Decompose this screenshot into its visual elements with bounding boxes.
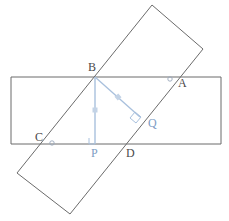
tick-on-bp — [93, 108, 98, 113]
label-p: P — [91, 146, 98, 160]
label-b: B — [88, 60, 96, 74]
geometry-figure: B A C Q P D — [0, 0, 229, 221]
label-c: C — [35, 130, 43, 144]
label-q: Q — [148, 116, 157, 130]
label-a: A — [178, 76, 187, 90]
label-d: D — [126, 146, 135, 160]
figure-background — [0, 0, 229, 221]
geometry-canvas: B A C Q P D — [0, 0, 229, 221]
